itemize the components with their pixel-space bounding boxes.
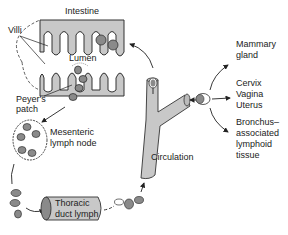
mesenteric-label: Mesenteric xyxy=(50,127,95,137)
lymphocyte-icon xyxy=(125,199,134,209)
bronchus-label-3: lymphoid xyxy=(236,139,272,149)
thoracic-label: Thoracic xyxy=(55,198,90,208)
uterus-label: Uterus xyxy=(236,100,263,110)
cervix-label: Cervix xyxy=(236,78,262,88)
circulation-label: Circulation xyxy=(151,152,194,162)
bronchus-label-2: associated xyxy=(236,128,279,138)
lymphocyte-icon xyxy=(11,190,21,197)
peyers-patch-label: Peyer's xyxy=(16,94,46,104)
lymphocyte-icon xyxy=(75,66,82,74)
lymphocyte-icon xyxy=(79,76,87,83)
bronchus-label-4: tissue xyxy=(236,150,260,160)
mesenteric-lymph-node xyxy=(13,120,47,160)
lymphocyte-icon xyxy=(108,40,118,50)
vagina-label: Vagina xyxy=(236,89,263,99)
bronchus-label: Bronchus– xyxy=(236,117,279,127)
intestine-label: Intestine xyxy=(65,6,99,16)
mammary-label-2: gland xyxy=(236,50,258,60)
lymphocyte-icon xyxy=(10,200,20,207)
lymphocyte-icon xyxy=(96,35,106,45)
circulation-vessel xyxy=(141,78,190,179)
mesenteric-label-2: lymph node xyxy=(50,138,97,148)
lymphocyte-icon xyxy=(115,199,124,205)
villi-label: Villi xyxy=(8,25,22,35)
peyers-patch-label-2: patch xyxy=(16,104,38,114)
mammary-label: Mammary xyxy=(236,39,276,49)
lymphocyte-icon xyxy=(135,197,144,204)
lumen-label: Lumen xyxy=(69,53,97,63)
lymphocyte-icon xyxy=(75,85,83,92)
lymphocyte-icon xyxy=(69,94,77,101)
lymphocyte-homing-diagram: Intestine Villi Lumen Peyer's patch Mese… xyxy=(0,0,288,235)
lymphocyte-icon xyxy=(15,210,22,218)
thoracic-label-2: duct lymph xyxy=(55,209,99,219)
